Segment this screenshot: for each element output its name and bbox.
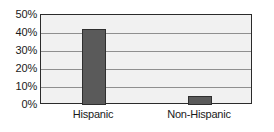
x-tick-label-hispanic: Hispanic xyxy=(38,108,148,121)
plot-area xyxy=(40,14,252,104)
y-tick-label: 20% xyxy=(0,63,37,74)
bar-chart: 50% 40% 30% 20% 10% 0% Hispanic Non-Hisp… xyxy=(0,0,274,132)
x-tick-label-non-hispanic: Non-Hispanic xyxy=(144,108,254,121)
gridline xyxy=(41,69,251,70)
bar-non-hispanic xyxy=(188,96,212,105)
gridline xyxy=(41,33,251,34)
y-tick-label: 50% xyxy=(0,9,37,20)
gridline xyxy=(41,87,251,88)
y-tick-label: 30% xyxy=(0,45,37,56)
bar-hispanic xyxy=(82,29,106,106)
x-axis: Hispanic Non-Hispanic xyxy=(0,108,274,128)
gridline xyxy=(41,51,251,52)
y-tick-label: 40% xyxy=(0,27,37,38)
y-tick-label: 10% xyxy=(0,81,37,92)
